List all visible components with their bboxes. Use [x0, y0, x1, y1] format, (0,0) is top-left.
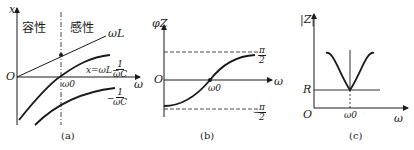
capacitive-region-label: 容性 — [22, 22, 46, 34]
origin-label-c: O — [303, 109, 312, 120]
caption-c: (c) — [349, 130, 362, 141]
inductive-line-label: ωL — [108, 28, 124, 39]
inductive-region-label: 感性 — [70, 22, 94, 34]
intersection-dot-a — [59, 53, 63, 57]
min-r-label: R — [303, 84, 311, 95]
total-reactance-fraction: 1 ωC — [113, 60, 127, 79]
lower-asymptote-label: π 2 — [258, 103, 266, 122]
origin-label-b: O — [154, 74, 163, 85]
caption-a: (a) — [61, 130, 75, 141]
upper-asymptote-label: π 2 — [258, 46, 266, 65]
resonance-dot-b — [208, 78, 212, 82]
origin-label-a: O — [6, 71, 15, 82]
figure-canvas — [0, 0, 414, 150]
x-axis-label-a: ω — [134, 79, 143, 90]
capacitive-curve — [35, 88, 115, 125]
x-axis-label-c: ω — [394, 113, 403, 124]
caption-b: (b) — [200, 130, 214, 141]
y-axis-label-a: x — [9, 4, 15, 15]
resonance-label-a: ω0 — [62, 80, 75, 89]
x-axis-label-b: ω — [274, 76, 283, 87]
y-axis-label-c: |Z| — [300, 14, 315, 25]
panel-c — [314, 14, 408, 108]
resonance-label-b: ω0 — [208, 84, 221, 93]
resonance-label-c: ω0 — [344, 111, 357, 120]
panel-b — [164, 25, 272, 117]
capacitive-fraction: 1 ωC — [113, 88, 127, 107]
y-axis-label-b: φZ — [152, 18, 167, 29]
